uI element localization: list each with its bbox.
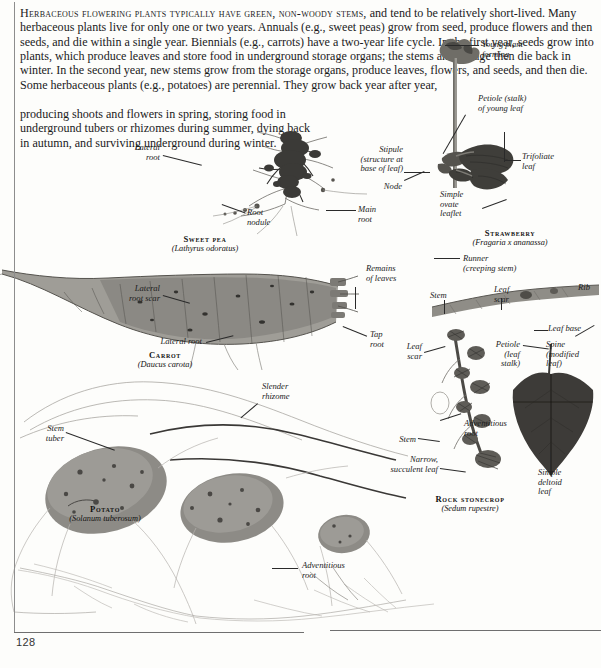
leader-remains-of-leaves (355, 287, 356, 309)
lower-root-wisps-image (14, 560, 574, 632)
left-margin-rule (14, 2, 15, 632)
caption-strawberry: Strawberry (Fragaria x ananassa) (440, 228, 580, 249)
intro-lead-smallcaps: Herbaceous flowering plants typically ha… (20, 6, 367, 20)
label-carrot-lateral-root: Lateral root (128, 337, 202, 347)
label-trifoliate-leaf: Trifoliate leaf (522, 152, 580, 171)
caption-carrot-common: Carrot (110, 350, 220, 360)
caption-potato-common: Potato (40, 504, 170, 514)
caption-rock-stonecrop-sci: (Sedum rupestre) (405, 504, 535, 514)
leader-strawberry-leaf-scar (501, 298, 502, 310)
label-narrow-succulent-leaf: Narrow, succulent leaf (376, 455, 438, 474)
label-runner-creeping-stem: Runner (creeping stem) (463, 254, 553, 273)
label-sweetpea-lateral-root: Lateral root (108, 143, 160, 162)
caption-sweet-pea: Sweet pea (Lathyrus odoratus) (150, 234, 260, 255)
label-young-plant-forming: Young plant forming (482, 40, 548, 59)
caption-rock-stonecrop: Rock stonecrop (Sedum rupestre) (405, 494, 535, 515)
label-node: Node (366, 182, 402, 192)
page-number: 128 (16, 636, 36, 648)
label-strawberry-leaf-scar: Leaf scar (494, 285, 526, 304)
label-spine-modified-leaf: Spine (modified leaf) (546, 340, 598, 369)
leader-simple-deltoid-leaf (550, 452, 551, 470)
leader-trifoliate-bracket (504, 132, 505, 162)
label-petiole-young-leaf: Petiole (stalk) of young leaf (478, 94, 550, 113)
label-sedum-leaf-scar: Leaf scar (388, 342, 422, 361)
label-strawberry-stem: Stem (430, 291, 460, 301)
caption-strawberry-common: Strawberry (440, 228, 580, 238)
label-simple-ovate-leaflet: Simple ovate leaflet (440, 190, 482, 219)
leader-runner (434, 258, 460, 259)
label-rib: Rib (578, 283, 601, 293)
label-simple-deltoid-leaf: Simple deltoid leaf (538, 468, 584, 497)
caption-potato-sci: (Solanum tuberosum) (40, 514, 170, 524)
caption-sweet-pea-sci: (Lathyrus odoratus) (150, 244, 260, 254)
caption-rock-stonecrop-common: Rock stonecrop (405, 494, 535, 504)
caption-strawberry-sci: (Fragaria x ananassa) (440, 238, 580, 248)
label-stipule: Stipule (structure at base of leaf) (341, 145, 403, 174)
footer-rule-right (330, 630, 601, 631)
book-page: Herbaceous flowering plants typically ha… (0, 0, 601, 668)
label-lateral-root-scar: Lateral root scar (98, 284, 160, 303)
leader-leaf-base (534, 330, 548, 331)
label-stem-tuber: Stem tuber (20, 424, 64, 443)
footer-rule-left (14, 632, 304, 633)
leader-young-plant-forming (445, 45, 479, 46)
leader-trifoliate-leaf (505, 160, 521, 161)
label-sedum-stem: Stem (382, 435, 416, 445)
caption-potato: Potato (Solanum tuberosum) (40, 504, 170, 525)
label-sweetpea-main-root: Main root (358, 205, 398, 224)
label-remains-of-leaves: Remains of leaves (366, 264, 416, 283)
label-slender-rhizome: Slender rhizome (262, 382, 310, 401)
leader-strawberry-stem (444, 300, 445, 314)
leader-sweetpea-main-root (326, 210, 356, 211)
label-leaf-petiole: Petiole (leaf stalk) (480, 340, 520, 369)
caption-sweet-pea-common: Sweet pea (150, 234, 260, 244)
label-sweetpea-root-nodule: Root nodule (247, 208, 301, 227)
